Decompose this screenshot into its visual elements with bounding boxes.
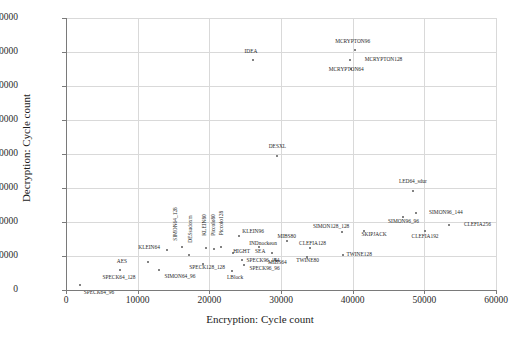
x-axis-tick-label: 40000: [341, 296, 365, 306]
data-point-label: AES: [117, 260, 127, 266]
x-axis-title: Encryption: Cycle count: [0, 313, 520, 325]
y-axis-tick-label: 160000: [0, 13, 18, 23]
data-point: [349, 59, 351, 61]
y-axis-tick-label: 140000: [0, 47, 18, 57]
gridline-vertical: [496, 18, 497, 290]
x-axis-tick-label: 10000: [126, 296, 150, 306]
data-point: [220, 246, 222, 248]
data-point: [354, 49, 356, 51]
data-point: [424, 230, 426, 232]
data-point: [415, 212, 417, 214]
data-point-label: SKIPJACK: [362, 233, 387, 239]
data-point-label: MCRYPTON128: [365, 57, 403, 63]
data-point-label: DESXL: [269, 144, 286, 150]
data-point-label: LBlock: [227, 275, 243, 281]
data-point: [181, 246, 183, 248]
data-point-label: CLEFIA192: [412, 234, 439, 240]
gridline-horizontal: [66, 256, 496, 257]
data-point: [188, 254, 190, 256]
data-point-label: DESsudoxm: [188, 215, 194, 242]
x-axis-tick-label: 20000: [197, 296, 221, 306]
scatter-chart: SPECK64_96SPECK64_128AESSIMON64_96KLEIN6…: [0, 0, 520, 340]
data-point: [147, 261, 149, 263]
data-point: [412, 190, 414, 192]
data-point-label: SPECK128_128: [189, 265, 225, 271]
data-point: [231, 270, 233, 272]
x-axis-line: [66, 290, 496, 291]
data-point-label: SPECK64_128: [103, 275, 136, 281]
gridline-horizontal: [66, 86, 496, 87]
data-point: [286, 240, 288, 242]
y-axis-tick-label: 60000: [0, 183, 18, 193]
data-point-label: KLEIN64: [138, 245, 160, 251]
data-point: [309, 247, 311, 249]
y-axis-line: [66, 18, 67, 290]
data-point: [271, 252, 273, 254]
gridline-horizontal: [66, 222, 496, 223]
data-point-label: SIMON64_96: [165, 274, 196, 280]
data-point-label: CLEFIA256: [464, 222, 491, 228]
data-point: [448, 224, 450, 226]
y-axis-tick-label: 0: [13, 285, 18, 295]
data-point: [158, 269, 160, 271]
gridline-horizontal: [66, 52, 496, 53]
data-point-label: SIMON128_128: [313, 224, 349, 230]
data-point-label: MCRYPTON64: [329, 67, 364, 73]
data-point-label: TWINE80: [296, 258, 319, 264]
data-point: [166, 249, 168, 251]
data-point: [341, 231, 343, 233]
y-axis-tick-label: 20000: [0, 251, 18, 261]
data-point-label: KLEIN96: [242, 229, 264, 235]
data-point: [342, 254, 344, 256]
data-point-label: Piccolo128: [219, 211, 225, 235]
data-point-label: SIMON96_144: [429, 210, 463, 216]
data-point-label: CLEFIA128: [299, 241, 326, 247]
x-axis-tick-label: 30000: [269, 296, 293, 306]
x-axis-tick-label: 0: [64, 296, 69, 306]
data-point: [119, 269, 121, 271]
gridline-horizontal: [66, 120, 496, 121]
gridline-horizontal: [66, 18, 496, 19]
x-axis-tick-mark: [496, 290, 497, 294]
data-point-label: SPECK96_96: [249, 266, 279, 272]
y-axis-tick-label: 40000: [0, 217, 18, 227]
data-point-label: Piccolo80: [211, 214, 217, 236]
data-point-label: SIMON64_128: [173, 207, 179, 241]
y-axis-tick-label: 100000: [0, 115, 18, 125]
data-point-label: IDEA: [244, 49, 257, 55]
data-point-label: HIGHT: [233, 249, 250, 255]
data-point: [213, 248, 215, 250]
data-point: [205, 247, 207, 249]
data-point-label: SEA: [255, 249, 265, 255]
data-point-label: MIBS64: [268, 260, 287, 266]
data-point-label: INDnockeon: [249, 241, 277, 247]
data-point-label: SIMON96_96: [388, 219, 419, 225]
data-point: [252, 59, 254, 61]
plot-area: SPECK64_96SPECK64_128AESSIMON64_96KLEIN6…: [66, 18, 496, 290]
y-axis-title: Decryption: Cycle count: [20, 38, 32, 258]
data-point-label: LED64_sdur: [399, 179, 427, 185]
data-point: [238, 235, 240, 237]
y-axis-tick-label: 120000: [0, 81, 18, 91]
gridline-horizontal: [66, 188, 496, 189]
data-point-label: MIBS80: [277, 234, 296, 240]
data-point-label: MCRYPTON96: [335, 39, 370, 45]
data-point-label: TWINE128: [346, 252, 371, 258]
gridline-horizontal: [66, 154, 496, 155]
x-axis-tick-label: 60000: [484, 296, 508, 306]
data-point: [241, 259, 243, 261]
y-axis-tick-label: 80000: [0, 149, 18, 159]
data-point: [276, 155, 278, 157]
data-point: [79, 284, 81, 286]
data-point-label: KLEIN80: [202, 215, 208, 237]
x-axis-tick-label: 50000: [412, 296, 436, 306]
data-point: [243, 264, 245, 266]
